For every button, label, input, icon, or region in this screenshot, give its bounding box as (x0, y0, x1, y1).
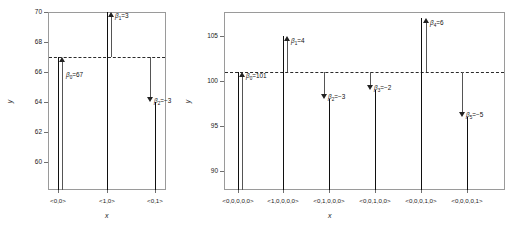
right-spike-5 (467, 117, 469, 190)
right-arrow-line-beta2 (324, 72, 325, 94)
right-arrow-head-beta5 (459, 112, 465, 117)
right-ytick-100: 100 (192, 78, 218, 85)
left-arrow-line-beta0 (62, 62, 63, 190)
right-arrow-line-beta1 (287, 41, 288, 72)
left-category-label-0: <0,0> (50, 198, 66, 204)
right-arrow-line-beta0 (242, 77, 243, 190)
right-tickmark-x-3 (375, 190, 376, 193)
left-arrow-head-beta1 (108, 12, 114, 17)
right-spike-4 (421, 18, 423, 190)
left-tickmark-x-1 (107, 190, 108, 193)
right-ytick-90: 90 (192, 168, 218, 175)
two-panel-effect-plot-figure: 70 68 66 64 62 60 β0=67 β1=3 (0, 0, 529, 244)
right-arrow-line-beta4 (426, 23, 427, 72)
right-spike-1 (283, 36, 285, 190)
left-beta0-label: β0=67 (66, 72, 83, 81)
left-arrow-line-beta2 (150, 57, 151, 97)
left-ytick-66: 66 (22, 69, 42, 76)
right-tickmark-x-1 (283, 190, 284, 193)
left-beta1-label: β1=3 (115, 13, 129, 22)
left-spike-1 (107, 12, 109, 190)
right-beta5-label: β5=−5 (466, 112, 483, 121)
right-category-label-2: <0,1,0,0,0> (313, 198, 344, 204)
right-spike-3 (375, 90, 377, 190)
right-ytick-95: 95 (192, 123, 218, 130)
right-arrow-line-beta5 (462, 72, 463, 112)
left-category-label-2: <0,1> (147, 198, 163, 204)
panel-right: 105 100 95 90 β0=101 β1=4 (190, 0, 529, 244)
right-category-label-5: <0,0,0,0,1> (451, 198, 482, 204)
left-beta2-label: β2=−3 (154, 98, 171, 107)
right-category-label-0: <0,0,0,0,0> (222, 198, 253, 204)
left-ytick-60: 60 (22, 159, 42, 166)
left-category-label-1: <1,0> (99, 198, 115, 204)
left-arrow-head-beta2 (147, 97, 153, 102)
right-beta2-label: β2=−3 (328, 94, 345, 103)
panel-left: 70 68 66 64 62 60 β0=67 β1=3 (0, 0, 190, 244)
left-ytick-62: 62 (22, 129, 42, 136)
left-xaxis-title: x (105, 212, 109, 219)
right-xaxis-title: x (328, 212, 332, 219)
right-arrow-head-beta1 (284, 36, 290, 41)
left-spike-0 (58, 57, 60, 190)
right-arrow-head-beta2 (321, 94, 327, 99)
right-category-label-3: <0,0,1,0,0> (359, 198, 390, 204)
right-category-label-4: <0,0,0,1,0> (405, 198, 436, 204)
right-beta3-label: β3=−2 (374, 85, 391, 94)
right-tickmark-x-0 (238, 190, 239, 193)
right-arrow-head-beta4 (423, 18, 429, 23)
left-tickmark-x-2 (155, 190, 156, 193)
left-yaxis-title: y (6, 97, 13, 107)
right-arrow-head-beta0 (239, 72, 245, 77)
right-yaxis-title: y (184, 97, 191, 107)
left-ytick-70: 70 (22, 9, 42, 16)
left-arrow-line-beta1 (111, 17, 112, 57)
right-tickmark-x-2 (329, 190, 330, 193)
right-tickmark-x-5 (467, 190, 468, 193)
right-category-label-1: <1,0,0,0,0> (267, 198, 298, 204)
right-beta4-label: β4=6 (430, 20, 444, 29)
right-beta0-label: β0=101 (246, 73, 267, 82)
right-arrow-head-beta3 (367, 85, 373, 90)
left-tickmark-x-0 (58, 190, 59, 193)
left-ytick-68: 68 (22, 39, 42, 46)
right-ytick-105: 105 (192, 33, 218, 40)
left-spike-2 (155, 102, 157, 190)
left-ytick-64: 64 (22, 99, 42, 106)
right-tickmark-x-4 (421, 190, 422, 193)
right-beta1-label: β1=4 (291, 38, 305, 47)
right-arrow-line-beta3 (370, 72, 371, 85)
right-spike-0 (238, 72, 240, 190)
left-arrow-head-beta0 (59, 57, 65, 62)
right-spike-2 (329, 99, 331, 190)
